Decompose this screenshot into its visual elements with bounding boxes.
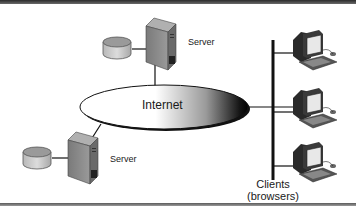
clients-label: Clients (browsers) xyxy=(238,178,308,202)
server-tower-icon xyxy=(68,132,98,184)
clients-label-line2: (browsers) xyxy=(238,190,308,202)
internet-label: Internet xyxy=(142,98,183,112)
server-tower-icon xyxy=(146,18,176,70)
client-computer-icon xyxy=(293,30,337,70)
database-disk-icon xyxy=(103,37,131,59)
client-computer-icon xyxy=(293,142,337,182)
server-top-label: Server xyxy=(188,37,215,47)
client-computer-icon xyxy=(293,88,337,128)
server-bottom-label: Server xyxy=(110,154,137,164)
database-disk-icon xyxy=(23,147,51,169)
clients-label-line1: Clients xyxy=(238,178,308,190)
